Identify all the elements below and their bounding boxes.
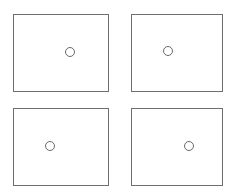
circle-marker-icon [163, 46, 173, 56]
panel-bottom-right [131, 108, 223, 186]
circle-marker-icon [184, 141, 194, 151]
circle-marker-icon [65, 47, 75, 57]
circle-marker-icon [45, 141, 55, 151]
panel-top-left [13, 14, 109, 92]
panel-top-right [131, 14, 223, 92]
panel-bottom-left [13, 108, 109, 186]
